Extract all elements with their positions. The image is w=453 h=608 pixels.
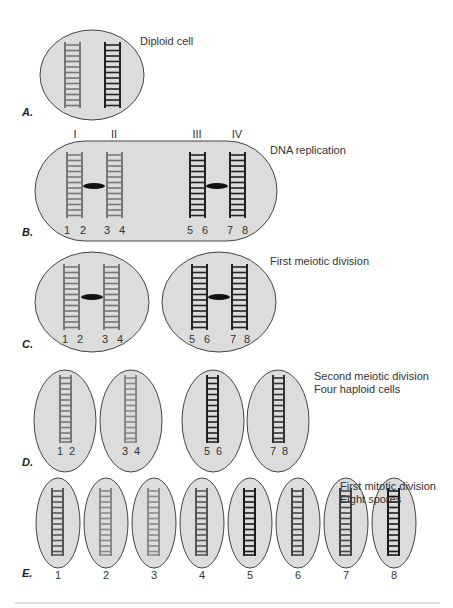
stage-letter-a: A. bbox=[21, 106, 33, 118]
strand-number: 4 bbox=[134, 445, 140, 457]
stage-c: 1 2 3 4 5 6 7 8 First meiotic division C… bbox=[22, 252, 369, 352]
strand-number: 5 bbox=[187, 224, 193, 236]
strand-number: 6 bbox=[202, 224, 208, 236]
caption-four-haploid-cells: Four haploid cells bbox=[314, 383, 401, 395]
strand-number: 2 bbox=[80, 224, 86, 236]
strand-number: 3 bbox=[102, 333, 108, 345]
strand-number: 7 bbox=[227, 224, 233, 236]
caption-dna-replication: DNA replication bbox=[270, 144, 346, 156]
strand-number: 2 bbox=[69, 445, 75, 457]
roman-label: I bbox=[73, 128, 76, 140]
spore-number: 4 bbox=[199, 569, 205, 581]
strand-number: 4 bbox=[117, 333, 123, 345]
caption-first-meiotic-division: First meiotic division bbox=[270, 255, 369, 267]
stage-letter-e: E. bbox=[22, 567, 32, 579]
stage-e: 1 2 3 4 5 6 7 8 First mitotic division E… bbox=[22, 478, 436, 581]
haploid-cell bbox=[182, 370, 244, 472]
strand-number: 1 bbox=[62, 333, 68, 345]
spore-number: 5 bbox=[247, 569, 253, 581]
strand-number: 1 bbox=[57, 445, 63, 457]
strand-number: 8 bbox=[244, 333, 250, 345]
haploid-cell bbox=[247, 370, 309, 472]
strand-number: 4 bbox=[119, 224, 125, 236]
spore-number: 6 bbox=[295, 569, 301, 581]
strand-number: 6 bbox=[216, 445, 222, 457]
caption-eight-spores: Eight spores bbox=[340, 493, 402, 505]
replicated-cell bbox=[35, 141, 277, 241]
strand-number: 1 bbox=[64, 224, 70, 236]
stage-letter-b: B. bbox=[22, 226, 33, 238]
spore-number: 1 bbox=[55, 569, 61, 581]
roman-label: IV bbox=[232, 128, 243, 140]
centromere bbox=[208, 294, 230, 300]
spore-number: 3 bbox=[151, 569, 157, 581]
stage-b: I II III IV 1 2 3 4 5 6 7 8 DNA replicat… bbox=[22, 128, 346, 241]
meiosis-diagram: Diploid cell A. I II III IV 1 2 3 4 5 6 … bbox=[0, 0, 453, 608]
stage-d: 1 2 3 4 5 6 7 8 Second meiotic division … bbox=[22, 370, 429, 472]
daughter-cell bbox=[162, 252, 276, 352]
daughter-cell bbox=[35, 252, 149, 352]
caption-first-mitotic-division: First mitotic division bbox=[340, 480, 436, 492]
strand-number: 7 bbox=[270, 445, 276, 457]
strand-number: 3 bbox=[122, 445, 128, 457]
diploid-cell bbox=[40, 30, 144, 120]
centromere bbox=[81, 294, 103, 300]
roman-label: II bbox=[111, 128, 117, 140]
spore-number: 2 bbox=[103, 569, 109, 581]
strand-number: 7 bbox=[230, 333, 236, 345]
strand-number: 5 bbox=[189, 333, 195, 345]
strand-number: 8 bbox=[242, 224, 248, 236]
strand-number: 5 bbox=[204, 445, 210, 457]
strand-number: 8 bbox=[282, 445, 288, 457]
haploid-cell bbox=[100, 370, 162, 472]
stage-letter-d: D. bbox=[22, 456, 33, 468]
haploid-cell bbox=[34, 370, 96, 472]
centromere bbox=[83, 183, 105, 189]
caption-second-meiotic-division: Second meiotic division bbox=[314, 370, 429, 382]
roman-label: III bbox=[192, 128, 201, 140]
centromere bbox=[206, 183, 228, 189]
spore-number: 8 bbox=[391, 569, 397, 581]
stage-a: Diploid cell A. bbox=[21, 30, 193, 120]
stage-letter-c: C. bbox=[22, 338, 33, 350]
caption-diploid-cell: Diploid cell bbox=[140, 35, 193, 47]
strand-number: 3 bbox=[104, 224, 110, 236]
strand-number: 2 bbox=[77, 333, 83, 345]
strand-number: 6 bbox=[204, 333, 210, 345]
spore-number: 7 bbox=[343, 569, 349, 581]
